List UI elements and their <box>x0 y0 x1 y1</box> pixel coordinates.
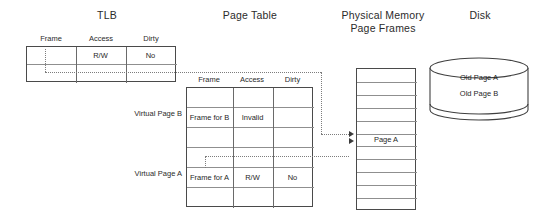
physical-memory-frame-2 <box>357 95 415 108</box>
physical-memory-title-line2: Page Frames <box>323 22 443 34</box>
tlb-title: TLB <box>67 9 147 21</box>
page-table-cell-dirty-row4: No <box>273 167 312 187</box>
page-table-cell-frame-row1: Frame for B <box>187 107 232 127</box>
page-table-frame-a-connector-horizontal <box>205 156 349 157</box>
disk-content-0: Old Page A <box>429 73 529 82</box>
tlb-frame-connector-horizontal <box>45 72 321 73</box>
page-table-connector-arrowhead <box>349 138 354 144</box>
physical-memory-frame-7 <box>357 159 415 172</box>
physical-memory-frame-5: Page A <box>357 134 415 147</box>
page-table-cell-dirty-row2 <box>273 127 312 147</box>
page-table-row-label-virtual-page-b: Virtual Page B <box>114 109 182 118</box>
page-table-cell-access-row3 <box>233 147 272 167</box>
page-table-cell-frame-row0 <box>187 88 232 107</box>
page-table-cell-frame-row3 <box>187 147 232 167</box>
physical-memory-frame-6 <box>357 146 415 159</box>
tlb-cell-dirty-row0: No <box>126 47 175 64</box>
page-table-cell-access-row4: R/W <box>233 167 272 187</box>
tlb-connector-arrowhead <box>349 131 354 137</box>
page-table-column-header-access: Access <box>232 75 272 84</box>
page-table-cell-dirty-row3 <box>273 147 312 167</box>
page-table-cell-frame-row2 <box>187 127 232 147</box>
page-table-cell-frame-row5 <box>187 187 232 206</box>
page-table-cell-frame-row4: Frame for A <box>187 167 232 187</box>
physical-memory-frame-3 <box>357 108 415 121</box>
page-table-cell-access-row1: Invalid <box>233 107 272 127</box>
tlb-frame-connector-vertical <box>45 49 46 72</box>
tlb-column-header-access: Access <box>76 34 126 43</box>
physical-memory-frame-10 <box>357 198 415 210</box>
page-table-cell-access-row5 <box>233 187 272 206</box>
virtual-memory-diagram: TLB Page Table Physical Memory Page Fram… <box>0 0 537 223</box>
tlb-column-header-dirty: Dirty <box>126 34 176 43</box>
page-table-cell-dirty-row1 <box>273 107 312 127</box>
physical-memory-frame-0 <box>357 69 415 82</box>
tlb-connector-to-page-a <box>321 134 349 135</box>
disk-title: Disk <box>445 9 515 21</box>
page-table-column-header-dirty: Dirty <box>272 75 313 84</box>
physical-memory-frame-8 <box>357 172 415 185</box>
tlb-cell-frame-row0 <box>27 47 75 64</box>
page-table-cell-access-row2 <box>233 127 272 147</box>
page-table-frame-a-connector-vertical <box>205 156 206 168</box>
physical-memory-frame-1 <box>357 82 415 95</box>
tlb-connector-drop-vertical <box>321 72 322 134</box>
page-table-title: Page Table <box>190 9 310 21</box>
page-table-cell-dirty-row0 <box>273 88 312 107</box>
page-table-cell-dirty-row5 <box>273 187 312 206</box>
physical-memory-frame-9 <box>357 185 415 198</box>
disk-content-1: Old Page B <box>429 89 529 98</box>
page-table-cell-access-row0 <box>233 88 272 107</box>
page-table-row-label-virtual-page-a: Virtual Page A <box>114 169 182 178</box>
tlb-column-header-frame: Frame <box>26 34 76 43</box>
tlb-cell-access-row0: R/W <box>76 47 125 64</box>
physical-memory-frame-4 <box>357 121 415 134</box>
physical-memory-title-line1: Physical Memory <box>323 9 443 21</box>
page-table-column-header-frame: Frame <box>186 75 232 84</box>
